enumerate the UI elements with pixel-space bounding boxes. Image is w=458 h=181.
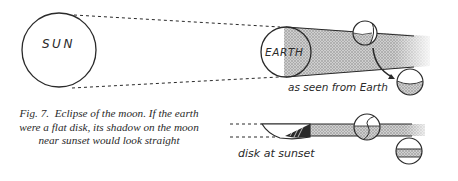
moon-straight-shadow [396, 138, 422, 164]
flat-earth-disk [262, 124, 310, 139]
sun-label: SUN [42, 37, 75, 51]
as-seen-from-earth-label: as seen from Earth [288, 81, 388, 93]
moon-in-shadow [353, 21, 377, 46]
figure-number: Fig. 7. [20, 107, 50, 119]
tangent-lines [72, 15, 280, 88]
sun: SUN [22, 13, 96, 87]
disk-at-sunset-label: disk at sunset [238, 147, 315, 160]
moon-in-flat-shadow [354, 114, 380, 142]
earth-label: EARTH [265, 46, 303, 58]
figure-caption: Fig. 7. Eclipse of the moon. If the eart… [16, 107, 202, 148]
moon-curved-shadow [396, 69, 424, 96]
eclipse-diagram: SUN EARTH as seen from Earth [0, 0, 458, 181]
